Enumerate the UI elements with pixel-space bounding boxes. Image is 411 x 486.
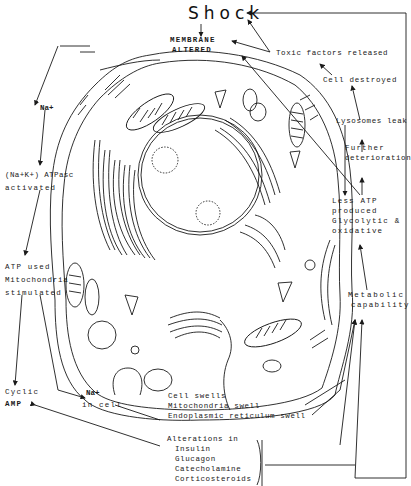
label-swelling: Cell swells Mitochondria swell Endoplasm… xyxy=(168,391,306,421)
label-atpase: (Na+K+) ATPasc activated xyxy=(5,170,74,193)
label-cell-destroyed: Cell destroyed xyxy=(323,75,397,85)
shock-title: Shock xyxy=(188,3,264,23)
label-toxic-factors: Toxic factors released xyxy=(276,48,388,58)
label-alterations: Alterations in Insulin Glucagon Catechol… xyxy=(167,434,252,484)
lysosome xyxy=(215,90,226,108)
label-membrane: MEMBRANE xyxy=(170,35,216,45)
nucleus xyxy=(138,115,262,235)
endoplasmic-reticulum xyxy=(93,118,285,410)
label-na-in-cell: Na+ in cell xyxy=(82,388,122,410)
label-cyclic-amp: Cyclic AMP xyxy=(5,387,39,409)
label-altered: ALTERED xyxy=(172,45,212,55)
cell-membrane xyxy=(50,51,352,420)
nucleolus xyxy=(152,147,178,173)
label-na-top: Na+ xyxy=(40,103,54,113)
label-lysosomes-leak: Lysosomes leak xyxy=(336,116,407,126)
label-less-atp: Less ATP produced Glycolytic & oxidative xyxy=(332,196,400,236)
label-atp-used: ATP used Mitochondria stimulated xyxy=(5,262,69,298)
label-further-deterioration: Further deterioration xyxy=(345,143,411,163)
label-metabolic-capability: Metabolic capability xyxy=(348,290,410,310)
